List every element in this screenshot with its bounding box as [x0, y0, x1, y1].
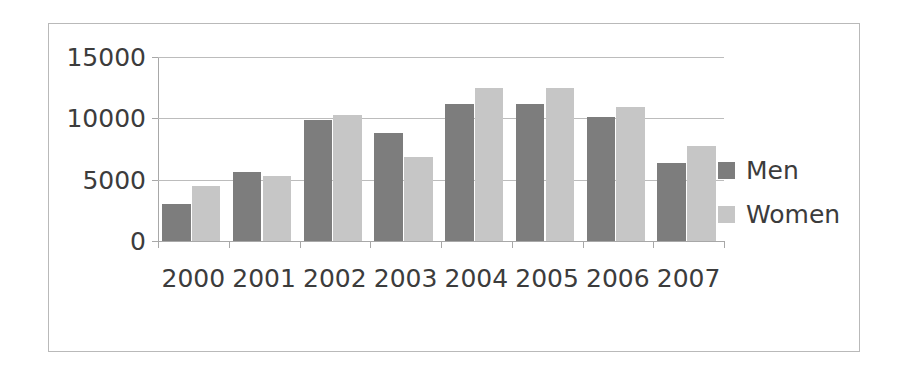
bar-women-2006[interactable] [616, 107, 644, 241]
bar-men-2004[interactable] [445, 104, 473, 241]
plot-area: 050001000015000 200020012002200320042005… [158, 57, 724, 241]
chart-legend: MenWomen [718, 148, 840, 236]
y-tick-label: 5000 [82, 167, 146, 192]
bar-men-2000[interactable] [162, 204, 190, 241]
category-group: 2002 [300, 57, 371, 241]
y-tick-label: 10000 [66, 106, 146, 131]
legend-entry-women[interactable]: Women [718, 192, 840, 236]
bar-women-2000[interactable] [192, 186, 220, 241]
x-axis-tick [441, 241, 442, 248]
category-group: 2000 [158, 57, 229, 241]
x-tick-label-2006: 2006 [586, 266, 650, 291]
category-group: 2003 [370, 57, 441, 241]
bar-women-2001[interactable] [263, 176, 291, 241]
category-group: 2007 [653, 57, 724, 241]
legend-swatch-women-icon [718, 206, 735, 223]
bar-women-2002[interactable] [333, 115, 361, 241]
bar-women-2004[interactable] [475, 88, 503, 241]
x-tick-label-2005: 2005 [515, 266, 579, 291]
bar-pair [370, 57, 441, 241]
bar-pair [300, 57, 371, 241]
bar-men-2006[interactable] [587, 117, 615, 242]
bar-women-2003[interactable] [404, 157, 432, 241]
x-axis-tick [158, 241, 159, 248]
x-tick-label-2007: 2007 [657, 266, 721, 291]
bar-men-2007[interactable] [657, 163, 685, 242]
bar-men-2003[interactable] [374, 133, 402, 241]
x-axis-tick [370, 241, 371, 248]
x-axis-tick [724, 241, 725, 248]
y-tick-label: 15000 [66, 45, 146, 70]
x-tick-label-2003: 2003 [374, 266, 438, 291]
category-group: 2005 [512, 57, 583, 241]
y-tick-label: 0 [130, 229, 146, 254]
category-group: 2001 [229, 57, 300, 241]
bar-pair [229, 57, 300, 241]
x-axis-tick [229, 241, 230, 248]
bar-pair [583, 57, 654, 241]
x-axis-tick [583, 241, 584, 248]
category-group: 2004 [441, 57, 512, 241]
x-tick-label-2004: 2004 [445, 266, 509, 291]
x-axis-tick [653, 241, 654, 248]
bar-women-2007[interactable] [687, 146, 715, 241]
x-tick-label-2002: 2002 [303, 266, 367, 291]
bar-pair [158, 57, 229, 241]
bar-men-2005[interactable] [516, 104, 544, 241]
category-group: 2006 [583, 57, 654, 241]
bar-men-2001[interactable] [233, 172, 261, 241]
x-axis-tick [300, 241, 301, 248]
legend-swatch-men-icon [718, 162, 735, 179]
legend-entry-men[interactable]: Men [718, 148, 840, 192]
x-axis-tick [512, 241, 513, 248]
bar-women-2005[interactable] [546, 88, 574, 241]
x-tick-label-2000: 2000 [162, 266, 226, 291]
legend-label: Men [746, 158, 799, 183]
x-tick-label-2001: 2001 [232, 266, 296, 291]
bar-pair [441, 57, 512, 241]
legend-label: Women [746, 202, 840, 227]
bar-pair [653, 57, 724, 241]
bar-pair [512, 57, 583, 241]
bar-men-2002[interactable] [304, 120, 332, 241]
